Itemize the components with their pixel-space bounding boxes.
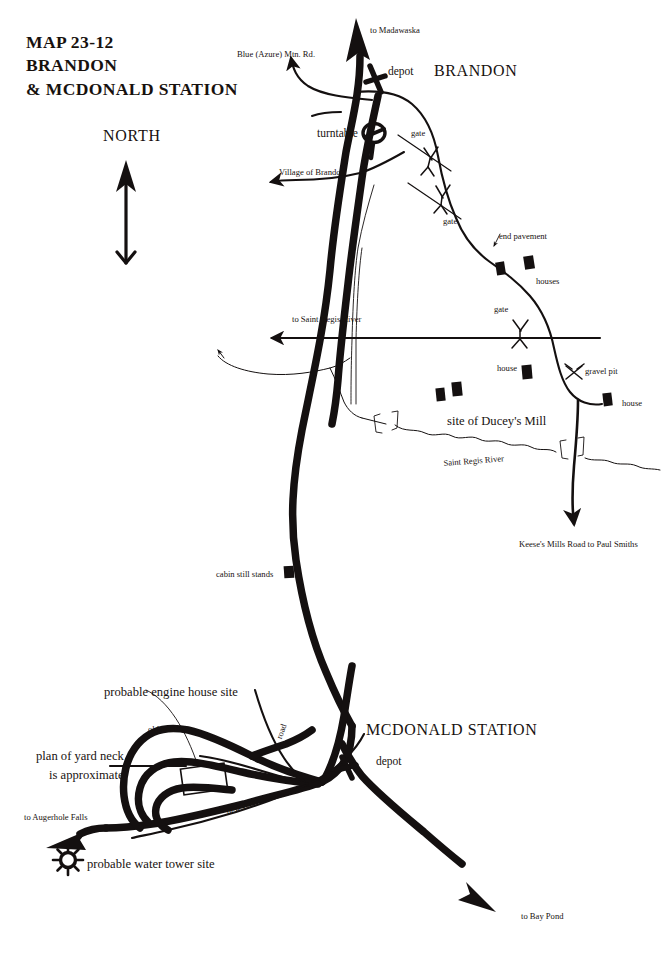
feature-depot-mcdonald: depot: [376, 755, 402, 769]
feature-turntable: turntable: [317, 127, 358, 141]
place-label-mcdonald-station: MCDONALD STATION: [366, 721, 537, 740]
crossed-picks-icon: [565, 364, 584, 379]
feature-house-2: house: [622, 398, 642, 408]
feature-site-of-duceys-mill: site of Ducey's Mill: [447, 414, 546, 429]
destination-blue-azure-mtn-rd: Blue (Azure) Mtn. Rd.: [237, 49, 315, 59]
destination-augerhole-falls: to Augerhole Falls: [24, 812, 88, 822]
title-line-1: MAP 23-12: [26, 31, 238, 54]
map-drawing: .rail { fill:none; stroke:#141010; strok…: [0, 0, 670, 960]
feature-house-1: house: [497, 363, 517, 373]
feature-gate-2: gate: [443, 216, 457, 226]
feature-old-road: old road: [148, 724, 176, 734]
title-line-3: & MCDONALD STATION: [26, 78, 238, 101]
feature-gate-3: gate: [494, 304, 508, 314]
feature-probable-water-tower-site: probable water tower site: [87, 857, 215, 872]
map-title: MAP 23-12 BRANDON & MCDONALD STATION: [26, 31, 238, 101]
depot-brandon-icon: [366, 66, 385, 92]
destination-keeses-mills-road: Keese's Mills Road to Paul Smiths: [519, 539, 638, 549]
note-yard-neck-line-2: is approximate: [49, 768, 124, 783]
north-arrow-icon: [116, 160, 136, 263]
note-yard-neck-line-1: plan of yard neck: [36, 749, 124, 764]
place-label-brandon: BRANDON: [434, 62, 517, 81]
water-tower-starburst-icon: [53, 845, 83, 875]
map-figure: .rail { fill:none; stroke:#141010; strok…: [0, 0, 670, 960]
destination-village-of-brandon: Village of Brandon: [279, 167, 345, 177]
mcdonald-yard-rails: [46, 666, 496, 912]
destination-bay-pond: to Bay Pond: [521, 911, 564, 921]
feature-depot-brandon: depot: [388, 65, 414, 79]
gate-marker-icon: [512, 320, 528, 348]
yard-roads: [110, 690, 364, 838]
feature-cabin-still-stands: cabin still stands: [216, 569, 273, 579]
title-line-2: BRANDON: [26, 54, 238, 77]
keeses-mills-road: [573, 400, 579, 524]
destination-madawaska: to Madawaska: [370, 25, 420, 35]
compass-label: NORTH: [103, 127, 161, 146]
main-rail-line: [293, 18, 378, 726]
feature-houses: houses: [536, 276, 559, 286]
gate-marker-icon: [421, 147, 438, 176]
feature-gate-1: gate: [411, 128, 425, 138]
feature-gravel-pit: gravel pit: [585, 366, 618, 376]
feature-probable-engine-house-site: probable engine house site: [104, 685, 238, 700]
feature-end-pavement: end pavement: [499, 231, 547, 241]
destination-saint-regis-river: to Saint Regis River: [292, 314, 361, 324]
